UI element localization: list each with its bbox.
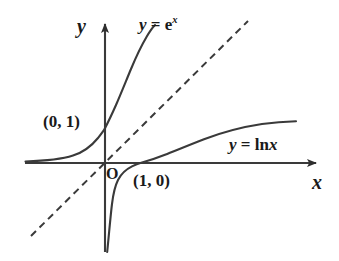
exponential-curve-label: y = ex — [139, 16, 178, 33]
math-graph-figure: y x y = ex y = lnx (0, 1) (1, 0) O — [0, 0, 339, 261]
logarithmic-curve-label: y = lnx — [229, 136, 277, 153]
exp-label-equals: = — [147, 15, 165, 34]
ln-label-function: ln — [255, 135, 269, 154]
ln-label-equals: = — [237, 135, 255, 154]
curve-exponential — [26, 25, 156, 162]
point-label-1-0: (1, 0) — [133, 172, 170, 189]
ln-label-lhs: y — [229, 135, 237, 154]
exp-label-lhs: y — [139, 15, 147, 34]
exp-label-exponent: x — [172, 14, 177, 25]
point-label-0-1: (0, 1) — [43, 113, 80, 130]
x-axis-label-text: x — [312, 171, 322, 193]
point-label-0-1-text: (0, 1) — [43, 112, 80, 131]
origin-label: O — [106, 166, 118, 182]
origin-label-text: O — [106, 165, 118, 182]
ln-label-argument: x — [269, 135, 278, 154]
y-axis-label-text: y — [77, 15, 86, 37]
x-axis-label: x — [312, 172, 322, 192]
y-axis-label: y — [77, 16, 86, 36]
point-label-1-0-text: (1, 0) — [133, 171, 170, 190]
